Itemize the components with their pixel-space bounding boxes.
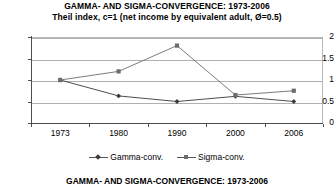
data-point-marker [58,78,62,82]
data-point-marker [116,94,121,99]
data-point-marker [117,69,121,73]
data-point-marker [175,44,179,48]
data-point-marker [292,89,296,93]
chart-legend: Gamma-conv.Sigma-conv. [0,152,334,162]
legend-entry[interactable]: Sigma-conv. [177,152,245,162]
data-point-marker [291,99,296,104]
chart-container: GAMMA- AND SIGMA-CONVERGENCE: 1973-2006 … [0,0,334,184]
data-point-marker [233,93,237,97]
next-chart-title-partial: GAMMA- AND SIGMA-CONVERGENCE: 1973-2006 [0,176,334,184]
legend-entry[interactable]: Gamma-conv. [89,152,163,162]
legend-label: Sigma-conv. [198,152,245,162]
data-point-marker [175,99,180,104]
series-line-gamma-conv [60,80,294,102]
legend-label: Gamma-conv. [110,152,163,162]
series-line-sigma-conv [60,46,294,95]
square-marker-icon [177,153,196,162]
diamond-marker-icon [89,153,108,162]
